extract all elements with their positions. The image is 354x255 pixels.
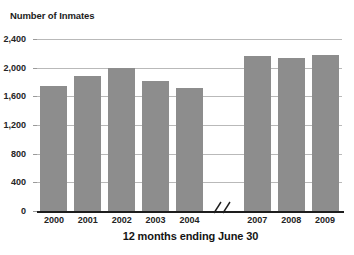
x-axis-tick-label-2002: 2002 xyxy=(112,215,132,225)
x-axis-tick-label-2000: 2000 xyxy=(44,215,64,225)
y-axis-tick-label: 2,400 xyxy=(0,34,26,44)
x-axis-tick-label-2007: 2007 xyxy=(247,215,267,225)
y-axis-tick-mark xyxy=(33,182,37,183)
bar-2001 xyxy=(74,76,101,211)
y-axis-tick-label: 400 xyxy=(0,177,26,187)
y-axis-tick-mark xyxy=(33,39,37,40)
bar-2008 xyxy=(278,58,305,211)
x-axis-line xyxy=(37,211,344,213)
y-axis-tick-label: 1,600 xyxy=(0,91,26,101)
chart-title: Number of Inmates xyxy=(10,10,94,21)
x-axis-title: 12 months ending June 30 xyxy=(37,230,344,242)
bar-2004 xyxy=(176,88,203,211)
y-axis-tick-label: 1,200 xyxy=(0,120,26,130)
bar-2002 xyxy=(108,68,135,211)
y-axis-tick-label: 0 xyxy=(0,206,26,216)
bar-2000 xyxy=(40,86,67,211)
y-axis-tick-label: 800 xyxy=(0,149,26,159)
bar-2003 xyxy=(142,81,169,211)
gridline xyxy=(37,39,342,40)
bar-2009 xyxy=(312,55,339,211)
bar-2007 xyxy=(244,56,271,211)
plot-area: 2,4002,0001,6001,2008004000 xyxy=(37,39,342,211)
x-axis-tick-label-2003: 2003 xyxy=(146,215,166,225)
x-axis-tick-label-2009: 2009 xyxy=(315,215,335,225)
y-axis-tick-mark xyxy=(33,154,37,155)
x-axis-tick-label-2004: 2004 xyxy=(179,215,199,225)
x-axis-tick-label-2001: 2001 xyxy=(78,215,98,225)
x-axis-tick-label-2008: 2008 xyxy=(281,215,301,225)
y-axis-tick-mark xyxy=(33,96,37,97)
y-axis-tick-label: 2,000 xyxy=(0,63,26,73)
y-axis-tick-mark xyxy=(33,68,37,69)
bar-chart: Number of Inmates 2,4002,0001,6001,20080… xyxy=(0,0,354,255)
y-axis-tick-mark xyxy=(33,125,37,126)
